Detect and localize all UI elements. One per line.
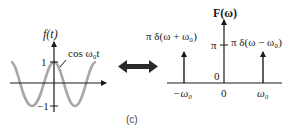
impulse-right-label: π δ(ω − ω₀) xyxy=(231,36,282,49)
label-pointer xyxy=(60,60,66,67)
zero-tick-y: 0 xyxy=(214,70,220,82)
tick-one: 1 xyxy=(41,56,47,68)
x-tick-neg: −ω₀ xyxy=(173,87,192,99)
frequency-domain-plot: F(ω) π 0 π δ(ω + ω₀) π δ(ω − ω₀) −ω₀ 0 ω… xyxy=(146,6,282,99)
x-tick-pos: ω₀ xyxy=(257,87,269,99)
pi-tick: π xyxy=(211,39,217,51)
F-omega-label: F(ω) xyxy=(213,6,237,20)
impulse-left-label: π δ(ω + ω₀) xyxy=(146,30,197,43)
x-tick-zero: 0 xyxy=(221,87,227,99)
tick-neg-one: −1 xyxy=(37,100,49,112)
f-t-label: f(t) xyxy=(43,27,58,41)
time-domain-plot: f(t) cos ω₀t 1 −1 xyxy=(10,27,106,112)
cos-label: cos ω₀t xyxy=(68,47,100,59)
double-arrow-icon xyxy=(118,60,158,73)
fourier-pair-figure: f(t) cos ω₀t 1 −1 F(ω) π 0 π δ(ω + ω₀) π… xyxy=(0,0,301,138)
figure-caption: (c) xyxy=(126,114,138,125)
